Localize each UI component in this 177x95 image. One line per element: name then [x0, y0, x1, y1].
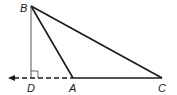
segment-bc — [31, 6, 162, 78]
label-d: D — [27, 82, 35, 94]
arrow-left-icon — [8, 75, 15, 81]
triangle-diagram: B D A C — [0, 0, 177, 95]
label-a: A — [68, 82, 76, 94]
label-c: C — [158, 82, 166, 94]
label-b: B — [20, 2, 27, 14]
right-angle-marker — [31, 71, 38, 78]
